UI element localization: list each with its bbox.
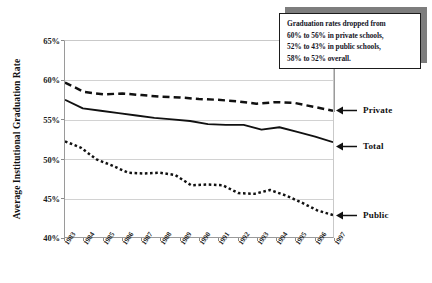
x-tick-label-1993: 1993	[256, 231, 270, 247]
x-tick-label-1996: 1996	[314, 231, 328, 247]
arrow-left-icon-total	[336, 141, 358, 152]
callout-line-3: 52% to 43% in public schools,	[287, 41, 414, 53]
x-tick-label-1992: 1992	[237, 231, 251, 247]
x-tick-label-1994: 1994	[275, 231, 289, 247]
arrow-left-icon-public	[336, 210, 358, 221]
series-label-private: Private	[363, 105, 392, 115]
series-label-total: Total	[363, 141, 384, 151]
x-tick-label-1989: 1989	[179, 231, 193, 247]
x-tick-label-1995: 1995	[294, 231, 308, 247]
callout-leader-line	[334, 69, 335, 112]
arrow-left-icon-private	[336, 105, 358, 116]
x-tick-label-1988: 1988	[159, 231, 173, 247]
x-tick-label-1997: 1997	[333, 231, 347, 247]
x-tick-label-1984: 1984	[82, 231, 96, 247]
callout-line-1: Graduation rates dropped from	[287, 18, 414, 30]
series-label-public: Public	[363, 210, 389, 220]
callout-line-2: 60% to 56% in private schools,	[287, 30, 414, 42]
x-tick-label-1986: 1986	[121, 231, 135, 247]
x-tick-label-1985: 1985	[102, 231, 116, 247]
x-tick-label-1991: 1991	[217, 231, 231, 247]
x-tick-label-1987: 1987	[140, 231, 154, 247]
callout-line-4: 58% to 52% overall.	[287, 53, 414, 65]
callout-box: Graduation rates dropped from 60% to 56%…	[279, 13, 421, 69]
x-tick-label-1983: 1983	[63, 231, 77, 247]
x-tick-label-1990: 1990	[198, 231, 212, 247]
